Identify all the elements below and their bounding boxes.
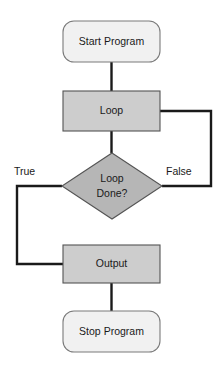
node-start-program[interactable]: Start Program <box>63 21 160 62</box>
flowchart-canvas: Start Program Loop Loop Done? Output Sto… <box>0 0 221 369</box>
start-program-label: Start Program <box>79 35 145 47</box>
output-label: Output <box>96 257 128 269</box>
edge-label-true: True <box>14 165 35 177</box>
node-decision-loop-done[interactable]: Loop Done? <box>62 153 162 219</box>
node-stop-program[interactable]: Stop Program <box>63 311 160 352</box>
node-output[interactable]: Output <box>63 245 160 283</box>
stop-program-label: Stop Program <box>79 325 144 337</box>
decision-label-line1: Loop <box>100 172 124 184</box>
loop-label: Loop <box>100 104 124 116</box>
edge-label-false: False <box>166 165 192 177</box>
node-loop[interactable]: Loop <box>63 91 160 131</box>
decision-label-line2: Done? <box>97 187 128 199</box>
flowchart-svg: Start Program Loop Loop Done? Output Sto… <box>0 0 221 369</box>
connector-true-branch <box>17 186 63 264</box>
